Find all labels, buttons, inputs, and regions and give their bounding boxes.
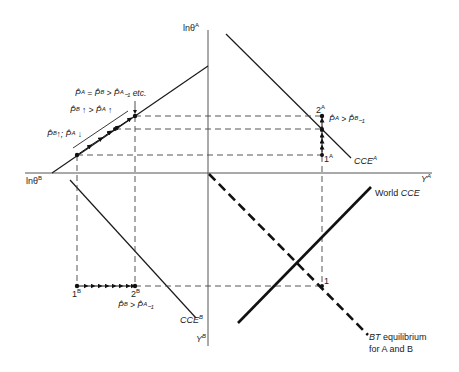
world-cce-label: World CCE	[375, 188, 421, 198]
right-arrows	[320, 114, 324, 157]
cce-a-curve	[226, 34, 351, 158]
point-1a-label: 1A	[324, 153, 333, 164]
cce-b-label: CCEB	[180, 314, 203, 325]
point-2b-label: 2B	[131, 288, 140, 299]
ln-theta-a-label: lnθA	[183, 22, 199, 33]
point-1-label: 1	[324, 276, 329, 286]
annotation-right-relation: P̂ᴬ > P̂ᴮ₋₁	[329, 114, 365, 124]
y-b-label: YB	[196, 333, 206, 344]
annotation-top-equality: P̂ᴬ = P̂ᴮ > P̂ᴬ₋₁ etc.	[75, 88, 146, 98]
cce-a-label: CCEA	[354, 155, 377, 166]
y-a-label: YA	[421, 173, 431, 184]
annotation-low-relation: P̂ᴮ↑; P̂ᴬ ↓	[47, 129, 82, 139]
point-2a-label: 2A	[316, 104, 325, 115]
point-1b-label: 1B	[72, 288, 81, 299]
dashed-guides	[77, 116, 322, 286]
diagram-canvas: lnθA lnθB YA YB CCEA CCEB World CCE BT e…	[0, 0, 459, 372]
annotation-mid-relation: P̂ᴮ ↑ > P̂ᴬ ↑	[70, 105, 112, 115]
bt-equilibrium-label-line2: for A and B	[369, 344, 413, 354]
bt-equilibrium-label: BT equilibrium	[369, 332, 427, 342]
bt-equilibrium-line	[209, 174, 368, 335]
annotation-bottom-relation: P̂ᴮ > P̂ᴬ₋₁	[118, 300, 154, 310]
four-quadrant-diagram: lnθA lnθB YA YB CCEA CCEB World CCE BT e…	[0, 0, 459, 372]
ln-theta-b-label: lnθB	[26, 175, 42, 186]
world-cce-line	[238, 187, 371, 323]
bottom-arrows	[75, 284, 137, 288]
